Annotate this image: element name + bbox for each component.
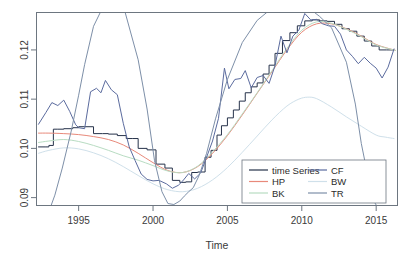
chart-figure: 0.090.100.110.12 19952000200520102015 Ti…	[0, 0, 409, 258]
y-tick-label: 0.10	[20, 138, 31, 158]
line-chart: 0.090.100.110.12 19952000200520102015 Ti…	[0, 0, 409, 258]
x-axis-title: Time	[206, 239, 229, 251]
x-tick-label: 1995	[68, 215, 91, 226]
legend-label-bw: BW	[331, 176, 346, 187]
y-tick-label: 0.12	[20, 40, 31, 60]
legend-label-tr: TR	[331, 188, 344, 199]
chart-legend[interactable]: time SeriesHPBKCFBWTR	[242, 160, 386, 203]
legend-label-cf: CF	[331, 165, 344, 176]
x-tick-label: 2010	[291, 215, 314, 226]
y-tick-label: 0.11	[20, 89, 31, 108]
legend-label-bk: BK	[272, 188, 285, 199]
y-tick-label: 0.09	[20, 187, 31, 207]
legend-label-hp: HP	[272, 176, 285, 187]
x-tick-label: 2000	[142, 215, 165, 226]
x-tick-label: 2015	[365, 215, 388, 226]
x-tick-label: 2005	[216, 215, 239, 226]
